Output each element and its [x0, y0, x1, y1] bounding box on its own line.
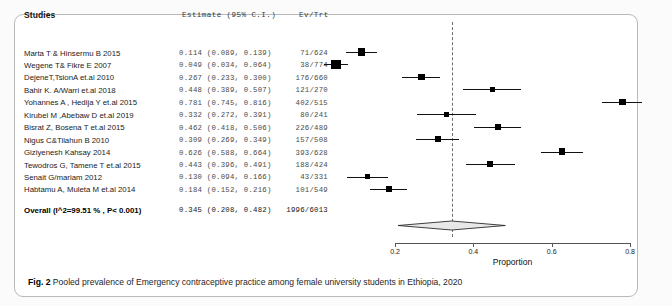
- pooled-effect-diamond: [396, 219, 507, 232]
- figure-root: Studies Estimate (95% C.I.) Ev/Trt Marta…: [0, 0, 672, 306]
- caption-text: Pooled prevalence of Emergency contracep…: [53, 277, 462, 287]
- study-marker: [444, 112, 449, 117]
- study-marker: [365, 174, 371, 180]
- study-marker: [435, 136, 441, 142]
- x-axis-tick-label: 0.8: [625, 248, 635, 255]
- study-marker: [619, 99, 625, 105]
- x-axis-tick: [552, 243, 553, 247]
- study-marker: [358, 48, 365, 55]
- study-marker: [490, 87, 495, 92]
- x-axis-tick: [473, 243, 474, 247]
- study-marker: [495, 124, 501, 130]
- x-axis-line: [395, 243, 630, 244]
- figure-caption: Fig. 2 Pooled prevalence of Emergency co…: [28, 277, 628, 287]
- study-marker: [418, 74, 425, 81]
- study-marker: [487, 161, 493, 167]
- x-axis-tick: [395, 243, 396, 247]
- x-axis-tick-label: 0.4: [468, 248, 478, 255]
- forest-plot: 0.20.40.60.8Proportion: [0, 0, 672, 270]
- caption-label: Fig. 2: [28, 277, 50, 287]
- reference-line: [452, 22, 453, 237]
- study-marker: [559, 148, 565, 154]
- x-axis-tick: [630, 243, 631, 247]
- x-axis-tick-label: 0.6: [547, 248, 557, 255]
- study-marker: [331, 60, 341, 70]
- x-axis-tick-label: 0.2: [390, 248, 400, 255]
- x-axis-title: Proportion: [493, 257, 533, 267]
- study-marker: [386, 186, 392, 192]
